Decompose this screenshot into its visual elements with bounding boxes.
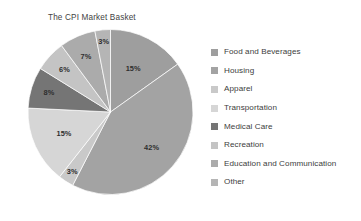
legend-item[interactable]: Food and Beverages [211,43,361,62]
legend-item-label: Food and Beverages [224,48,301,56]
legend-item-label: Housing [224,67,254,75]
legend-item[interactable]: Apparel [211,80,361,99]
legend-item[interactable]: Transportation [211,99,361,118]
legend-swatch-icon [211,179,218,186]
pie-slice-label: 15% [126,64,141,73]
pie-slice-label: 6% [59,65,70,74]
legend-item[interactable]: Housing [211,62,361,81]
legend-item-label: Education and Communication [224,160,336,168]
legend-swatch-icon [211,160,218,167]
legend-item[interactable]: Recreation [211,136,361,155]
legend-swatch-icon [211,105,218,112]
pie-slice-label: 3% [67,167,78,176]
legend-item[interactable]: Other [211,173,361,192]
legend-item[interactable]: Medical Care [211,117,361,136]
legend: Food and BeveragesHousingApparelTranspor… [211,43,361,192]
pie-slice-label: 15% [56,129,71,138]
pie-slice-label: 7% [81,52,92,61]
legend-item-label: Transportation [224,104,277,112]
legend-item-label: Recreation [224,141,264,149]
legend-swatch-icon [211,49,218,56]
legend-swatch-icon [211,142,218,149]
legend-swatch-icon [211,123,218,130]
pie-slice-label: 3% [98,37,109,46]
legend-item-label: Medical Care [224,123,273,131]
legend-item-label: Apparel [224,85,252,93]
pie-svg: 15%42%3%15%8%6%7%3% [0,0,210,221]
pie-slices-group [28,30,193,195]
pie-slice-label: 8% [44,88,55,97]
legend-swatch-icon [211,67,218,74]
legend-swatch-icon [211,86,218,93]
pie-plot-area: 15%42%3%15%8%6%7%3% [0,0,210,221]
pie-slice-label: 42% [144,143,159,152]
pie-chart-figure: The CPI Market Basket 15%42%3%15%8%6%7%3… [0,0,361,221]
legend-item-label: Other [224,178,245,186]
legend-item[interactable]: Education and Communication [211,155,361,174]
